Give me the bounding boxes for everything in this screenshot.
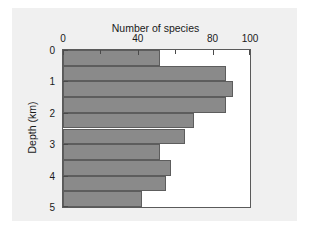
bar bbox=[63, 176, 166, 192]
bar bbox=[63, 97, 226, 113]
bar bbox=[63, 144, 160, 160]
y-tick-label: 5 bbox=[49, 202, 55, 213]
bar bbox=[63, 129, 185, 145]
y-tick bbox=[63, 113, 68, 114]
y-axis-title: Depth (km) bbox=[26, 49, 38, 206]
x-tick bbox=[213, 50, 214, 55]
x-tick-label: 40 bbox=[132, 33, 143, 44]
y-tick bbox=[63, 81, 68, 82]
y-tick bbox=[63, 144, 68, 145]
bar bbox=[63, 66, 226, 82]
bar bbox=[63, 191, 142, 207]
y-tick-label: 1 bbox=[49, 76, 55, 87]
y-tick bbox=[63, 50, 68, 51]
x-axis-title: Number of species bbox=[62, 22, 249, 34]
bar bbox=[63, 113, 194, 129]
x-tick-label: 100 bbox=[242, 33, 259, 44]
bar bbox=[63, 50, 160, 66]
y-tick-label: 0 bbox=[49, 45, 55, 56]
bar-series bbox=[63, 50, 250, 207]
y-tick bbox=[63, 176, 68, 177]
bar bbox=[63, 160, 171, 176]
plot-area: 04080100 012345 bbox=[62, 49, 251, 208]
x-tick bbox=[100, 50, 101, 54]
bar bbox=[63, 81, 233, 97]
x-tick bbox=[249, 50, 250, 55]
y-tick bbox=[63, 206, 68, 207]
y-tick-label: 2 bbox=[49, 107, 55, 118]
figure-panel: Number of species Depth (km) 04080100 01… bbox=[12, 8, 297, 221]
y-tick-label: 4 bbox=[49, 170, 55, 181]
x-tick-label: 80 bbox=[207, 33, 218, 44]
x-tick bbox=[138, 50, 139, 55]
x-tick-label: 0 bbox=[60, 33, 66, 44]
x-tick bbox=[175, 50, 176, 54]
y-tick-label: 3 bbox=[49, 139, 55, 150]
